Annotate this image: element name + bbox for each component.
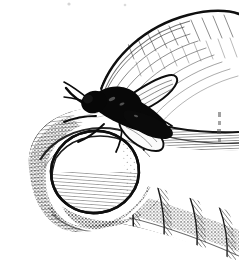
illustration-frame: Insect resting on a human thumb [0, 0, 239, 276]
insect-on-thumb-illustration [0, 0, 239, 276]
